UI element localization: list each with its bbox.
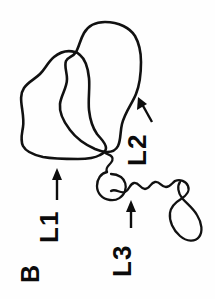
junction-squiggle	[104, 152, 113, 172]
label-l2: L2	[124, 134, 150, 166]
arrow-l3	[126, 200, 136, 228]
label-l3: L3	[109, 245, 135, 277]
figure-panel: B L1 L2 L3	[0, 0, 215, 299]
panel-letter: B	[18, 265, 43, 283]
label-l1: L1	[36, 211, 62, 243]
loop-l1-path	[21, 51, 106, 159]
arrow-l1	[52, 168, 62, 200]
tail-small-loop	[97, 172, 126, 200]
supercoil-path	[111, 181, 175, 192]
terminal-figure-eight-path	[170, 180, 202, 240]
arrow-l2	[137, 97, 152, 122]
loop-l2-path	[60, 22, 141, 152]
